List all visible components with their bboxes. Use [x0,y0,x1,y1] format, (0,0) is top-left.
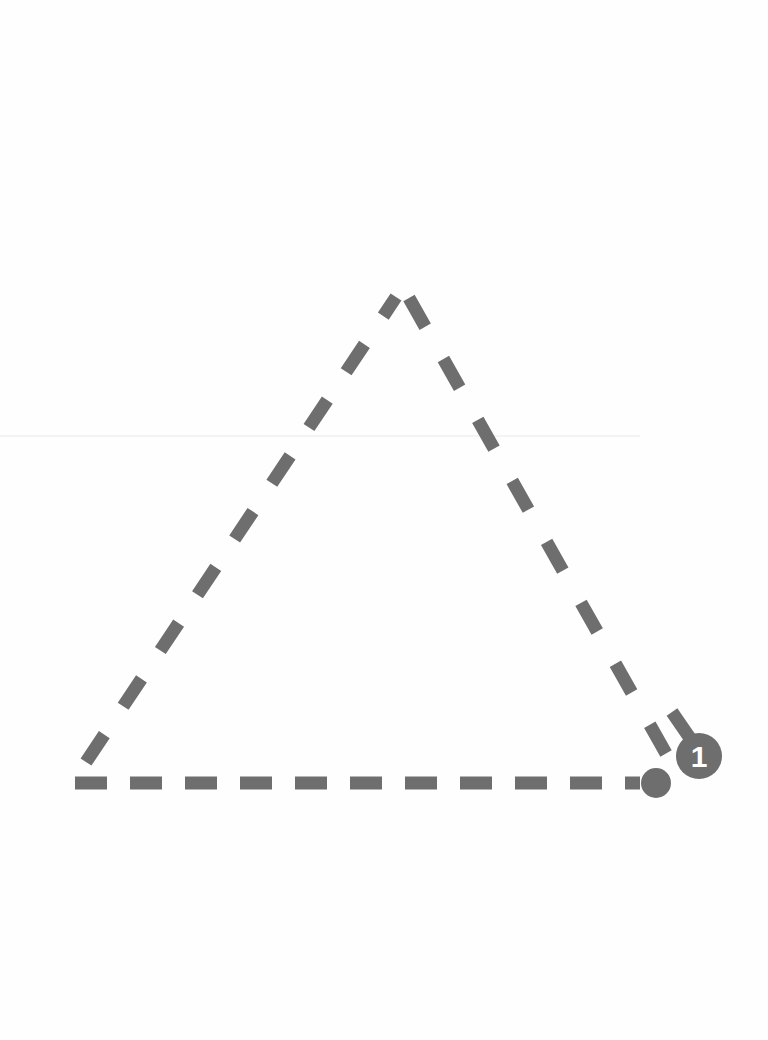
triangle-left-edge [86,297,396,762]
tracing-figure-svg: 1 [0,0,768,1040]
start-marker-number: 1 [691,740,708,773]
worksheet-canvas: 1 Shape Tracing Worksheet A large dashed… [0,0,768,1040]
endpoint-dot [641,768,671,798]
triangle-right-edge [409,298,668,757]
